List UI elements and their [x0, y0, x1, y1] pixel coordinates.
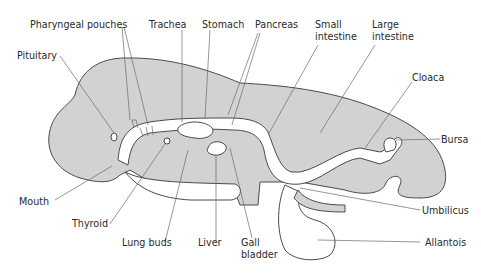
label-small-intestine-1: Small: [315, 19, 342, 30]
embryo-gut-diagram: Pharyngeal pouches Trachea Stomach Pancr…: [0, 0, 481, 273]
thyroid-shape: [164, 138, 170, 144]
label-large-intestine-2: intestine: [372, 31, 414, 42]
label-allantois: Allantois: [425, 237, 466, 248]
label-gall-bladder-1: Gall: [241, 237, 260, 248]
allantois-shape: [279, 185, 335, 260]
label-stomach: Stomach: [202, 19, 244, 30]
label-liver: Liver: [198, 237, 222, 248]
label-pancreas: Pancreas: [255, 19, 298, 30]
label-mouth: Mouth: [19, 196, 49, 207]
umbilicus-tube: [294, 190, 345, 212]
label-pharyngeal-pouches: Pharyngeal pouches: [30, 19, 127, 30]
label-lung-buds: Lung buds: [122, 237, 172, 248]
label-bursa: Bursa: [441, 134, 468, 145]
label-pituitary: Pituitary: [17, 50, 57, 61]
label-trachea: Trachea: [149, 19, 186, 30]
label-large-intestine-1: Large: [372, 19, 399, 30]
liver-shape: [207, 142, 226, 155]
pituitary-shape: [111, 133, 117, 141]
label-cloaca: Cloaca: [412, 72, 444, 83]
label-gall-bladder-2: bladder: [241, 249, 278, 260]
bursa-shape: [384, 138, 396, 152]
label-umbilicus: Umbilicus: [422, 205, 469, 216]
label-thyroid: Thyroid: [72, 218, 108, 229]
label-small-intestine-2: intestine: [315, 31, 357, 42]
